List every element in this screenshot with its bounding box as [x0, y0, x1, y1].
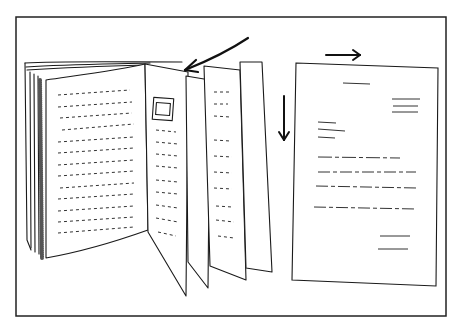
sketch-canvas	[0, 0, 463, 328]
single-page-document	[292, 63, 438, 286]
arrow-down-icon	[279, 96, 289, 140]
open-book	[25, 62, 272, 296]
illustration	[0, 0, 463, 328]
arrow-right-icon	[326, 50, 360, 60]
